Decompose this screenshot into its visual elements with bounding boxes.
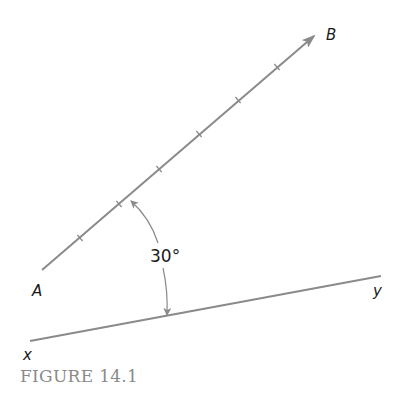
label-point-y: y	[372, 282, 383, 300]
label-point-a: A	[31, 282, 42, 300]
label-point-b: B	[326, 26, 336, 44]
figure-caption: FIGURE 14.1	[20, 366, 138, 386]
ray-ab	[42, 36, 314, 270]
label-point-x: x	[22, 346, 32, 364]
angle-label: 30°	[150, 246, 180, 266]
figure-canvas: B A y x 30° FIGURE 14.1	[0, 0, 409, 397]
angle-arc-upper	[131, 201, 158, 243]
ray-ab-line	[42, 36, 314, 270]
geometry-diagram: B A y x 30°	[0, 0, 409, 397]
angle-arc-lower	[163, 268, 167, 315]
line-xy	[30, 276, 381, 341]
